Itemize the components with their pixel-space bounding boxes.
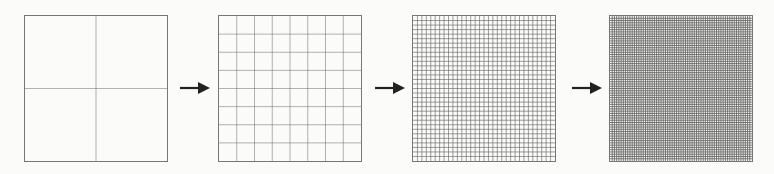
grid-panel-8x8 [218,15,362,162]
grid-panel-2x2 [24,15,168,162]
grid-panel-32x32 [412,15,556,162]
right-arrow-icon [375,80,405,96]
right-arrow-icon [572,80,602,96]
right-arrow-icon [180,80,210,96]
grid-panel-64x64 [609,15,753,162]
